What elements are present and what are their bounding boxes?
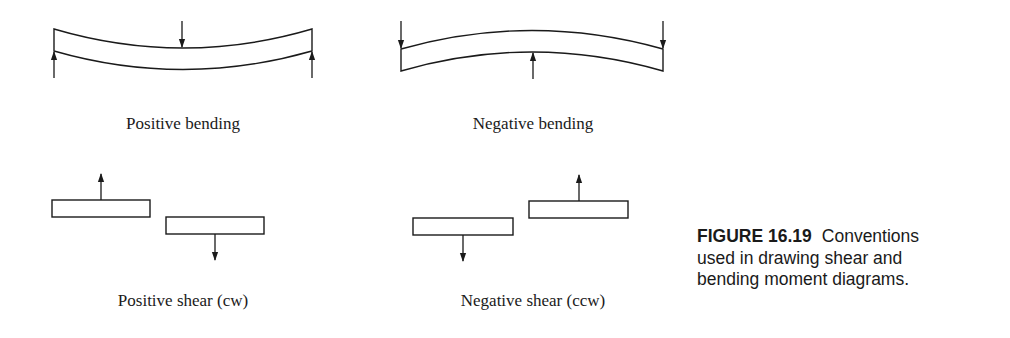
figure-caption: FIGURE 16.19Conventions used in drawing … bbox=[697, 226, 997, 291]
caption-line-2: used in drawing shear and bbox=[697, 248, 997, 270]
figure-number: FIGURE 16.19 bbox=[697, 226, 812, 246]
shear-element-right bbox=[529, 201, 628, 218]
negative-shear-panel: Negative shear (ccw) bbox=[413, 175, 628, 310]
positive-bending-label: Positive bending bbox=[126, 114, 240, 133]
negative-shear-label: Negative shear (ccw) bbox=[461, 291, 605, 310]
shear-element-right bbox=[166, 217, 264, 234]
shear-element-left bbox=[52, 200, 150, 217]
positive-bending-panel: Positive bending bbox=[54, 21, 312, 133]
positive-shear-panel: Positive shear (cw) bbox=[52, 174, 264, 310]
negative-bending-label: Negative bending bbox=[473, 114, 594, 133]
caption-text-1: Conventions bbox=[822, 226, 919, 246]
negative-bending-panel: Negative bending bbox=[401, 21, 663, 133]
shear-element-left bbox=[413, 218, 513, 235]
positive-shear-label: Positive shear (cw) bbox=[118, 291, 248, 310]
hogging-beam bbox=[401, 31, 663, 72]
caption-line-1: FIGURE 16.19Conventions bbox=[697, 226, 997, 248]
caption-line-3: bending moment diagrams. bbox=[697, 269, 997, 291]
sagging-beam bbox=[54, 29, 312, 70]
